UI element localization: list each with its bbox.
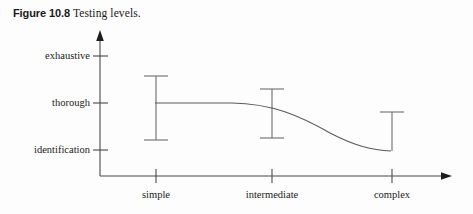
y-axis-label-exhaustive: exhaustive [0, 50, 90, 62]
error-bar-complex [380, 112, 404, 151]
x-axis-arrow-icon [441, 172, 452, 180]
testing-level-curve [155, 103, 391, 151]
figure-container: Figure 10.8 Testing levels. [0, 0, 473, 214]
error-bar-simple [144, 76, 168, 140]
x-axis-label-simple: simple [96, 189, 216, 201]
y-axis-label-identification: identification [0, 144, 90, 156]
x-axis-label-intermediate: intermediate [212, 189, 332, 201]
y-axis-label-thorough: thorough [0, 97, 90, 109]
error-bar-intermediate [260, 89, 284, 138]
y-axis-arrow-icon [96, 30, 104, 41]
x-axis-label-complex: complex [332, 189, 452, 201]
